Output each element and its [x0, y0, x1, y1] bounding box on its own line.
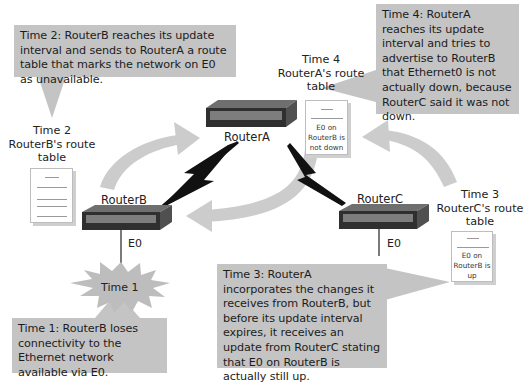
- time1-burst-label: Time 1: [101, 281, 138, 294]
- time4-callout: Time 4: RouterA reaches its update inter…: [376, 4, 519, 114]
- time3-description: Time 3: RouterA incorporates the changes…: [223, 268, 380, 383]
- router-a-label: RouterA: [224, 130, 270, 144]
- arrow-b-to-a: [100, 122, 200, 190]
- time2-route-table-doc: [30, 168, 73, 223]
- router-c-device: [339, 204, 429, 229]
- time2-callout: Time 2: RouterB reaches its update inter…: [14, 25, 236, 77]
- time4-table-label: Time 4 RouterA's route table: [270, 53, 372, 94]
- time3-callout-pointer: [385, 268, 450, 300]
- router-b-label: RouterB: [101, 193, 147, 207]
- router-c-e0-label: E0: [387, 237, 401, 250]
- routing-loop-diagram: Time 2: RouterB reaches its update inter…: [0, 0, 529, 385]
- arrow-c-to-a: [362, 120, 457, 187]
- time3-table-label: Time 3 RouterC's route table: [432, 188, 528, 229]
- time4-description: Time 4: RouterA reaches its update inter…: [382, 8, 512, 123]
- time2-table-label: Time 2 RouterB's route table: [2, 124, 102, 165]
- time4-route-table-doc: E0 on RouterB is not down: [305, 100, 348, 155]
- router-b-device: [82, 205, 172, 230]
- time1-callout: Time 1: RouterB loses connectivity to th…: [12, 318, 167, 373]
- router-a-device: [206, 100, 297, 127]
- router-b-e0-label: E0: [128, 237, 142, 250]
- router-c-label: RouterC: [357, 192, 403, 206]
- time1-description: Time 1: RouterB loses connectivity to th…: [18, 322, 138, 379]
- time3-callout: Time 3: RouterA incorporates the changes…: [217, 264, 387, 368]
- time3-route-table-doc: E0 on RouterB is up: [451, 231, 493, 282]
